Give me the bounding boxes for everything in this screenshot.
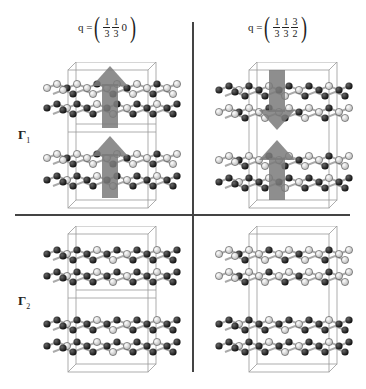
plain-value: 0 [121,21,127,33]
q-prefix: q = [248,21,262,33]
crystal-structure-gamma2-col1 [40,226,185,381]
right-paren: ) [301,12,307,42]
fraction: 32 [291,16,298,39]
crystal-structure-gamma1-col1 [40,62,185,212]
row-label-gamma1: Γ1 [18,127,30,145]
arrow-up-icon [92,66,128,128]
vertical-divider [192,22,194,372]
left-paren: ( [264,12,270,42]
crystal-structure-gamma1-col2 [207,62,357,212]
q-vector-label-col1: q = ( 13 13 0 ) [78,12,138,42]
left-paren: ( [94,12,100,42]
q-prefix: q = [78,21,92,33]
q-vector-label-col2: q = ( 13 13 32 ) [248,12,309,42]
arrow-up-icon [92,136,128,198]
fraction: 13 [103,16,110,39]
crystal-structure-gamma2-col2 [207,226,357,381]
horizontal-divider [15,214,350,216]
row-label-gamma2: Γ2 [18,293,30,311]
fraction: 13 [112,16,119,39]
fraction: 13 [282,16,289,39]
fraction: 13 [273,16,280,39]
right-paren: ) [130,12,136,42]
